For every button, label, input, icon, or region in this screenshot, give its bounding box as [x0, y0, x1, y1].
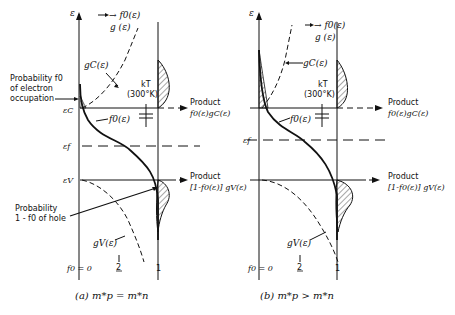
electron-product-hatch-b-left — [259, 50, 268, 108]
product-c-formula-a: f0(ε)gC(ε) — [190, 109, 230, 119]
arrow-icon — [180, 105, 188, 111]
prob-electron-label-2: of electron — [10, 84, 53, 94]
kt-temp-label-b: (300°K) — [304, 90, 335, 100]
panel-b — [247, 12, 385, 280]
f0-curve-label-a: f0(ε) — [109, 114, 130, 124]
product-v-label-b: Product — [388, 172, 418, 182]
tick-zero-b: f0 = 0 — [248, 264, 273, 274]
gv-label-a: gV(ε) — [93, 238, 117, 248]
ef-label-a: εf — [63, 142, 70, 152]
fermi-dirac-curve-b — [259, 50, 337, 240]
arrow-icon — [375, 105, 383, 111]
prob-electron-label-3: occupation — [10, 94, 54, 104]
hole-product-hatch-b — [336, 180, 353, 232]
f0-axis-label-b: → f0(ε) — [314, 20, 345, 30]
arrow-icon — [180, 177, 188, 183]
electron-product-hatch-a — [158, 60, 169, 108]
g-axis-label-b: g (ε) — [315, 32, 335, 42]
panel-a — [55, 12, 200, 280]
g-axis-label-a: g (ε) — [110, 22, 130, 32]
product-c-label-b: Product — [388, 98, 418, 108]
tick-one-b: 1 — [335, 264, 340, 274]
arrow-icon — [285, 61, 289, 65]
ef-label-b: εf — [243, 136, 250, 146]
gc-label-a: gC(ε) — [84, 60, 109, 70]
prob-hole-label-1: Probability — [15, 204, 57, 214]
ev-label-a: εV — [63, 176, 73, 186]
product-v-formula-b: [1-f0(ε)] gV(ε) — [388, 183, 445, 193]
axis-arrow-icon — [256, 12, 262, 20]
kt-label-b: kT — [318, 80, 328, 90]
axis-arrow-icon — [76, 12, 82, 20]
prob-hole-label-2: 1 - f0 of hole — [15, 214, 66, 224]
arrow-icon — [372, 177, 380, 183]
product-v-label-a: Product — [190, 172, 220, 182]
kt-label-a: kT — [141, 80, 151, 90]
arrow-icon — [74, 97, 79, 101]
tick-one-a: 1 — [156, 264, 161, 274]
kt-temp-label-a: (300°K) — [127, 90, 158, 100]
tick-half-den-b: 2 — [297, 263, 302, 273]
gv-label-b: gV(ε) — [287, 238, 311, 248]
prob-electron-label-1: Probability f0 — [10, 74, 63, 84]
product-c-label-a: Product — [190, 98, 220, 108]
gv-curve-a — [82, 180, 144, 262]
product-c-formula-b: f0(ε)gC(ε) — [388, 109, 428, 119]
f0-axis-label-a: → f0(ε) — [109, 10, 140, 20]
electron-product-hatch-b — [337, 60, 348, 108]
gc-label-b: gC(ε) — [303, 58, 328, 68]
energy-axis-label-a: ε — [70, 8, 75, 18]
product-v-formula-a: [1-f0(ε)] gV(ε) — [190, 183, 247, 193]
tick-half-den-a: 2 — [116, 263, 121, 273]
caption-a: (a) m*p = m*n — [75, 291, 149, 301]
tick-zero-a: f0 = 0 — [67, 264, 92, 274]
gv-curve-b — [262, 180, 338, 262]
energy-axis-label-b: ε — [249, 8, 254, 18]
ec-label-a: εC — [63, 106, 73, 116]
gc-curve-b — [262, 25, 292, 108]
hole-product-hatch-a — [157, 180, 170, 232]
f0-curve-label-b: f0(ε) — [290, 114, 311, 124]
caption-b: (b) m*p > m*n — [260, 291, 334, 301]
